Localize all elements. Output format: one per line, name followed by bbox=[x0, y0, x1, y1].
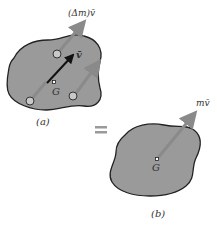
caption-a: (a) bbox=[36, 116, 50, 127]
particle-top bbox=[53, 50, 61, 58]
mass-center-a bbox=[53, 81, 56, 84]
body-b: G mv̄ (b) bbox=[110, 98, 210, 219]
particle-bottom-left bbox=[26, 97, 34, 105]
velocity-label-a: v̄ bbox=[76, 49, 82, 60]
equals-sign bbox=[95, 126, 107, 134]
center-label-a: G bbox=[52, 86, 60, 97]
body-a-outline bbox=[7, 35, 101, 110]
body-a: G v̄ (Δm)v̄ (a) bbox=[7, 8, 101, 127]
caption-b: (b) bbox=[151, 208, 165, 219]
momentum-label-b: mv̄ bbox=[196, 98, 210, 108]
particle-momentum-label: (Δm)v̄ bbox=[68, 8, 95, 18]
rigid-body-momentum-diagram: G v̄ (Δm)v̄ (a) G mv̄ (b) bbox=[0, 0, 217, 225]
particle-right bbox=[69, 92, 77, 100]
mass-center-b bbox=[156, 158, 159, 161]
center-label-b: G bbox=[152, 162, 160, 173]
